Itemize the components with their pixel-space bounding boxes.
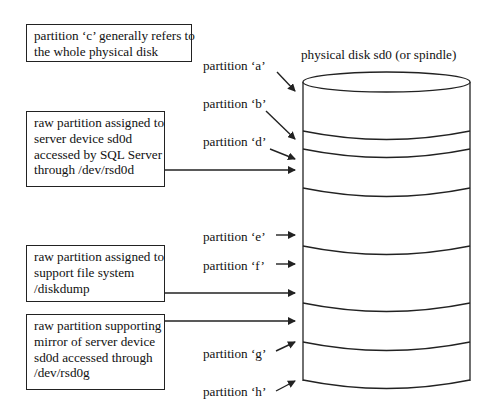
arrow-partition-a — [277, 72, 295, 91]
divider-b-d — [303, 149, 470, 158]
partition-label-d: partition ‘d’ — [203, 134, 266, 149]
note-line: raw partition supporting — [34, 318, 164, 334]
note-mirror: raw partition supporting mirror of serve… — [26, 314, 165, 390]
disk-top — [303, 72, 470, 92]
arrow-partition-h — [276, 381, 295, 391]
divider-g-h — [303, 342, 470, 351]
partition-label-b: partition ‘b’ — [203, 96, 266, 111]
note-diskdump: raw partition assigned to support file s… — [26, 245, 165, 302]
note-line: partition ‘c’ generally refers to — [34, 28, 191, 44]
note-sd0d: raw partition assigned to server device … — [26, 111, 165, 187]
partition-label-g: partition ‘g’ — [203, 346, 266, 361]
note-line: accessed by SQL Server — [34, 147, 164, 163]
note-line: mirror of server device — [34, 334, 164, 350]
arrow-partition-d — [270, 149, 295, 159]
disk-cylinder — [303, 72, 470, 389]
divider-a-b — [303, 131, 470, 140]
partition-label-h: partition ‘h’ — [203, 384, 266, 399]
divider-e-f — [303, 246, 470, 255]
disk-bottom — [303, 380, 470, 389]
partition-label-f: partition ‘f’ — [203, 258, 265, 273]
arrow-partition-b — [266, 111, 295, 139]
note-line: support file system — [34, 265, 164, 281]
note-line: raw partition assigned to — [34, 115, 164, 131]
divider-f-g — [303, 303, 470, 312]
partition-label-e: partition ‘e’ — [203, 229, 266, 244]
note-whole-disk: partition ‘c’ generally refers to the wh… — [26, 24, 192, 62]
divider-d-e — [303, 188, 470, 197]
note-line: the whole physical disk — [34, 44, 191, 60]
note-line: through /dev/rsd0d — [34, 162, 164, 178]
disk-title: physical disk sd0 (or spindle) — [301, 47, 456, 62]
note-line: server device sd0d — [34, 131, 164, 147]
note-line: sd0d accessed through — [34, 350, 164, 366]
note-line: raw partition assigned to — [34, 249, 164, 265]
arrow-partition-g — [276, 342, 295, 351]
partition-label-a: partition ‘a’ — [203, 58, 266, 73]
note-line: /dev/rsd0g — [34, 365, 164, 381]
note-line: /diskdump — [34, 281, 164, 297]
